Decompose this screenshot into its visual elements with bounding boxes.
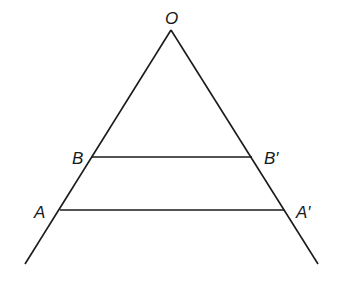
ray-right — [171, 30, 318, 264]
geometry-diagram: O B B′ A A′ — [0, 0, 337, 281]
label-a-prime: A′ — [295, 203, 311, 222]
label-o: O — [165, 9, 178, 28]
label-a: A — [33, 203, 45, 222]
label-b-prime: B′ — [264, 149, 279, 168]
ray-left — [25, 30, 171, 264]
label-b: B — [72, 149, 83, 168]
